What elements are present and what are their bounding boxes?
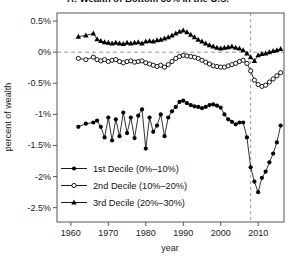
marker-open-circle	[267, 80, 271, 84]
marker-open-circle	[84, 58, 88, 62]
marker-filled-circle	[222, 112, 226, 116]
y-tick-label: 0.5%	[30, 16, 51, 26]
marker-filled-circle	[155, 123, 159, 127]
marker-filled-circle	[207, 103, 211, 107]
plot-area: 1960197019801990200020100.5%0%-0.5%-1%-1…	[0, 0, 296, 262]
legend-marker-open-circle-icon	[60, 180, 88, 191]
marker-filled-circle	[110, 138, 114, 142]
x-tick-label: 1970	[98, 228, 118, 238]
y-tick-label: 0%	[38, 47, 51, 57]
marker-filled-circle	[204, 105, 208, 109]
marker-filled-circle	[162, 134, 166, 138]
marker-filled-circle	[125, 131, 129, 135]
marker-open-circle	[170, 59, 174, 63]
legend-marker-filled-triangle-icon	[60, 197, 88, 208]
marker-filled-circle	[196, 105, 200, 109]
x-tick-label: 1980	[136, 228, 156, 238]
marker-filled-circle	[275, 140, 279, 144]
marker-open-circle	[275, 74, 279, 78]
legend-item-1st-decile: 1st Decile (0%–10%)	[60, 160, 187, 177]
marker-filled-circle	[72, 166, 76, 170]
marker-filled-circle	[189, 103, 193, 107]
x-axis-label: year	[161, 243, 179, 253]
marker-filled-circle	[76, 125, 80, 129]
marker-filled-circle	[91, 120, 95, 124]
marker-filled-circle	[279, 123, 283, 127]
legend-label: 2nd Decile (10%–20%)	[93, 181, 187, 191]
marker-filled-circle	[264, 170, 268, 174]
marker-filled-circle	[226, 117, 230, 121]
marker-filled-circle	[99, 125, 103, 129]
marker-filled-circle	[237, 120, 241, 124]
marker-filled-circle	[177, 100, 181, 104]
marker-filled-circle	[136, 114, 140, 118]
marker-filled-circle	[132, 136, 136, 140]
marker-filled-triangle	[229, 44, 234, 49]
marker-filled-triangle	[91, 31, 96, 36]
marker-filled-circle	[144, 147, 148, 151]
legend-marker-filled-circle-icon	[60, 163, 88, 174]
marker-filled-circle	[121, 110, 125, 114]
marker-open-circle	[264, 83, 268, 87]
legend-item-3rd-decile: 3rd Decile (20%–30%)	[60, 194, 187, 211]
legend-item-2nd-decile: 2nd Decile (10%–20%)	[60, 177, 187, 194]
marker-filled-triangle	[181, 27, 186, 32]
chart: 1960197019801990200020100.5%0%-0.5%-1%-1…	[0, 0, 296, 262]
marker-open-circle	[245, 61, 249, 65]
marker-filled-circle	[260, 176, 264, 180]
marker-filled-circle	[234, 122, 238, 126]
marker-filled-triangle	[278, 46, 283, 51]
marker-filled-circle	[271, 151, 275, 155]
y-tick-label: -2.5%	[27, 203, 51, 213]
y-tick-label: -0.5%	[27, 78, 51, 88]
legend: 1st Decile (0%–10%) 2nd Decile (10%–20%)…	[60, 160, 187, 211]
marker-open-circle	[271, 77, 275, 81]
y-axis-label: percent of wealth	[3, 83, 13, 152]
y-tick-label: -2%	[35, 172, 51, 182]
marker-filled-circle	[166, 115, 170, 119]
marker-filled-circle	[106, 115, 110, 119]
marker-open-circle	[76, 56, 80, 60]
marker-filled-circle	[159, 112, 163, 116]
marker-filled-circle	[84, 122, 88, 126]
marker-filled-circle	[102, 135, 106, 139]
marker-open-circle	[279, 71, 283, 75]
marker-filled-triangle	[136, 39, 141, 44]
x-tick-label: 1960	[61, 228, 81, 238]
marker-filled-circle	[114, 117, 118, 121]
marker-filled-circle	[211, 102, 215, 106]
marker-filled-circle	[95, 119, 99, 123]
marker-open-circle	[252, 78, 256, 82]
marker-filled-circle	[170, 109, 174, 113]
marker-filled-circle	[185, 101, 189, 105]
marker-filled-circle	[249, 165, 253, 169]
marker-filled-circle	[252, 179, 256, 183]
marker-filled-circle	[129, 115, 133, 119]
chart-title: A: Wealth of Bottom 30% in the U.S.	[0, 0, 296, 4]
x-tick-label: 2010	[248, 228, 268, 238]
marker-filled-circle	[174, 105, 178, 109]
x-tick-label: 2000	[211, 228, 231, 238]
marker-filled-circle	[256, 190, 260, 194]
marker-filled-circle	[219, 105, 223, 109]
marker-filled-circle	[267, 160, 271, 164]
marker-filled-circle	[151, 130, 155, 134]
legend-label: 3rd Decile (20%–30%)	[93, 198, 185, 208]
marker-filled-circle	[140, 107, 144, 111]
y-tick-label: -1%	[35, 109, 51, 119]
marker-filled-circle	[117, 134, 121, 138]
marker-filled-circle	[147, 115, 151, 119]
marker-filled-triangle	[71, 200, 76, 205]
y-tick-label: -1.5%	[27, 140, 51, 150]
legend-label: 1st Decile (0%–10%)	[93, 164, 179, 174]
marker-open-circle	[249, 69, 253, 73]
marker-open-circle	[166, 63, 170, 67]
marker-filled-circle	[245, 135, 249, 139]
marker-filled-circle	[181, 99, 185, 103]
x-tick-label: 1990	[173, 228, 193, 238]
marker-open-circle	[72, 183, 76, 187]
marker-filled-circle	[192, 104, 196, 108]
marker-filled-circle	[230, 120, 234, 124]
marker-filled-circle	[215, 104, 219, 108]
marker-filled-circle	[200, 106, 204, 110]
